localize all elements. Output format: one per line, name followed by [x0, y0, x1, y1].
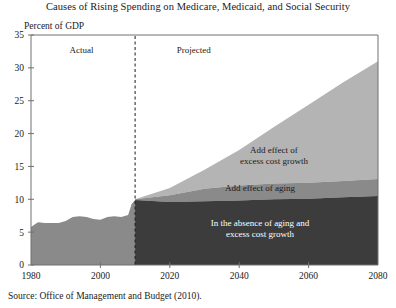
area-historical [31, 200, 135, 265]
x-tick-label: 2020 [160, 271, 179, 281]
area-chart: 05101520253035198020002020204020602080 A… [0, 0, 396, 290]
x-tick-label: 2040 [230, 271, 249, 281]
area-excess-cost-growth [135, 61, 378, 199]
y-tick-label: 5 [19, 228, 24, 238]
y-tick-label: 0 [19, 260, 24, 270]
y-tick-label: 20 [15, 129, 25, 139]
chart-areas [31, 61, 378, 265]
era-label-projected: Projected [177, 45, 211, 55]
figure-container: Causes of Rising Spending on Medicare, M… [0, 0, 396, 308]
source-note: Source: Office of Management and Budget … [8, 291, 202, 301]
y-tick-label: 15 [15, 162, 25, 172]
x-tick-label: 2060 [299, 271, 318, 281]
y-tick-label: 30 [15, 63, 25, 73]
annotation-1: Add effect of aging [225, 183, 296, 193]
x-tick-label: 1980 [22, 271, 41, 281]
era-label-actual: Actual [69, 45, 93, 55]
y-tick-label: 35 [15, 30, 25, 40]
era-labels: ActualProjected [69, 45, 211, 55]
x-tick-label: 2080 [369, 271, 388, 281]
y-tick-label: 10 [15, 195, 25, 205]
x-tick-label: 2000 [91, 271, 110, 281]
y-tick-label: 25 [15, 96, 25, 106]
